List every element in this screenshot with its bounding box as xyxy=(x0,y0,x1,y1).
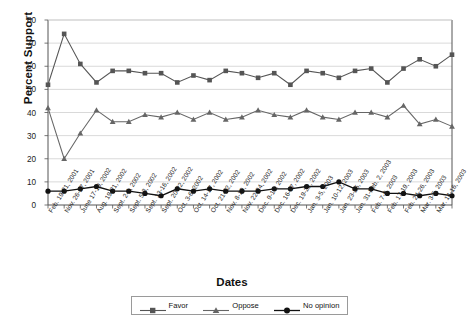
data-point xyxy=(45,105,51,110)
legend-item-favor: Favor xyxy=(140,301,188,310)
data-point xyxy=(450,52,455,57)
legend-item-no-opinion: No opinion xyxy=(274,301,339,310)
data-point xyxy=(62,32,67,37)
data-point xyxy=(434,64,439,69)
legend-label-no-opinion: No opinion xyxy=(303,301,339,310)
series-line-favor xyxy=(48,34,452,85)
data-point xyxy=(175,80,180,85)
x-axis-title: Dates xyxy=(0,276,464,288)
legend-swatch-square xyxy=(140,301,166,310)
data-point xyxy=(46,82,51,87)
chart-legend: Favor Oppose No opinion xyxy=(131,296,348,315)
data-point xyxy=(401,66,406,71)
data-point xyxy=(110,69,115,74)
data-point xyxy=(449,123,455,128)
data-point xyxy=(272,71,277,76)
data-point xyxy=(207,78,212,83)
data-point xyxy=(45,189,50,194)
data-point xyxy=(337,76,342,81)
series-line-oppose xyxy=(48,106,452,159)
data-point xyxy=(255,107,261,112)
data-point xyxy=(94,80,99,85)
legend-label-favor: Favor xyxy=(169,301,188,310)
data-point xyxy=(191,117,197,122)
data-point xyxy=(304,69,309,74)
data-point xyxy=(159,71,164,76)
data-point xyxy=(256,76,261,81)
data-point xyxy=(369,66,374,71)
legend-label-oppose: Oppose xyxy=(232,301,259,310)
data-point xyxy=(239,114,245,119)
data-point xyxy=(191,73,196,78)
legend-swatch-triangle xyxy=(203,301,229,310)
data-point xyxy=(94,107,100,112)
data-point xyxy=(401,103,407,108)
data-point xyxy=(127,69,132,74)
data-point xyxy=(353,69,358,74)
data-point xyxy=(417,57,422,62)
data-point xyxy=(223,69,228,74)
data-point xyxy=(240,71,245,76)
data-point xyxy=(320,71,325,76)
legend-item-oppose: Oppose xyxy=(203,301,259,310)
data-point xyxy=(433,117,439,122)
data-point xyxy=(304,107,310,112)
data-point xyxy=(320,114,326,119)
data-point xyxy=(143,71,148,76)
data-point xyxy=(78,62,83,67)
legend-swatch-circle xyxy=(274,301,300,310)
data-point xyxy=(288,82,293,87)
data-point xyxy=(385,80,390,85)
